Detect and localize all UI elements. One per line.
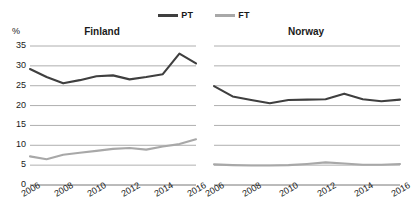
legend-swatch-ft (215, 14, 235, 17)
plot-area-finland: 35302520151050 200620082010201220142016 (0, 24, 204, 223)
legend-label-ft: FT (238, 11, 249, 20)
legend-item-pt: PT (158, 11, 193, 20)
legend-swatch-pt (158, 14, 178, 17)
plot-svg-norway (204, 24, 408, 223)
series-line-pt (30, 54, 196, 84)
series-line-ft (30, 139, 196, 159)
chart-legend: PT FT (0, 6, 408, 24)
legend-label-pt: PT (181, 11, 193, 20)
y-axis-tick-label: 20 (6, 101, 26, 110)
y-axis-tick-label: 25 (6, 81, 26, 90)
y-axis-tick-label: 15 (6, 120, 26, 129)
chart-panel-finland: % Finland 35302520151050 200620082010201… (0, 24, 204, 223)
y-axis-tick-label: 35 (6, 41, 26, 50)
y-axis-tick-label: 10 (6, 140, 26, 149)
plot-area-norway: 200620082010201220142016 (204, 24, 408, 223)
legend-item-ft: FT (215, 11, 249, 20)
y-axis-tick-label: 30 (6, 61, 26, 70)
y-axis-tick-label: 5 (6, 160, 26, 169)
chart-panel-norway: Norway 200620082010201220142016 (204, 24, 408, 223)
series-line-pt (214, 86, 400, 103)
